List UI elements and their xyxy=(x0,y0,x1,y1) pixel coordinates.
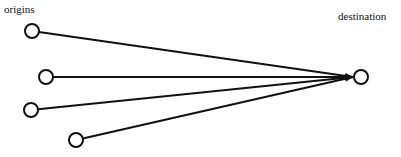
origin-2-node xyxy=(39,70,53,84)
diagram-canvas xyxy=(0,0,401,157)
origins-destination-diagram: origins destination xyxy=(0,0,401,157)
origin-4-node xyxy=(69,133,83,147)
flow-arrows xyxy=(38,32,353,138)
origin-1-node xyxy=(25,24,39,38)
destination-node xyxy=(354,70,368,84)
arrow-origin-1-to-destination xyxy=(39,32,353,77)
arrow-origin-3-to-destination xyxy=(38,77,353,109)
origin-3-node xyxy=(24,103,38,117)
arrow-origin-4-to-destination xyxy=(83,77,353,138)
